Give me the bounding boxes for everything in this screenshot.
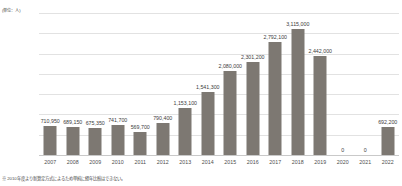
bar-value-label: 692,200 xyxy=(378,119,397,125)
x-axis-tick-label: 2014 xyxy=(202,159,214,165)
bar-value-label: 741,700 xyxy=(108,117,127,123)
bar-group: 675,3502009 xyxy=(84,13,107,155)
bar-group: 3,115,0002018 xyxy=(287,13,310,155)
bar-value-label: 2,080,000 xyxy=(218,63,242,69)
bar-value-label: 1,153,100 xyxy=(173,100,197,106)
bar-value-label: 2,792,100 xyxy=(263,34,287,40)
bar[interactable] xyxy=(291,29,304,155)
bar-group: 2,080,0002015 xyxy=(219,13,242,155)
x-axis-tick-label: 2009 xyxy=(89,159,101,165)
x-axis-tick-label: 2011 xyxy=(135,159,146,165)
bar-group: 1,541,3002014 xyxy=(197,13,220,155)
bar-value-label: 710,950 xyxy=(41,118,60,124)
bar-value-label: 0 xyxy=(341,147,344,153)
bar-group: 689,1502008 xyxy=(62,13,85,155)
x-axis-tick-label: 2013 xyxy=(179,159,191,165)
plot-area: 3,500,0003,000,0002,500,0002,000,0001,50… xyxy=(39,13,399,155)
bar-group: 790,4002012 xyxy=(152,13,175,155)
bar-group: 02021 xyxy=(354,13,377,155)
x-axis-tick-label: 2019 xyxy=(314,159,326,165)
bar-group: 02020 xyxy=(332,13,355,155)
bar-value-label: 790,400 xyxy=(153,115,172,121)
bar[interactable] xyxy=(134,132,147,155)
bar[interactable] xyxy=(179,108,192,155)
x-axis-tick-label: 2020 xyxy=(337,159,349,165)
x-axis-tick-label: 2008 xyxy=(67,159,79,165)
bar[interactable] xyxy=(156,123,169,155)
x-axis-tick-label: 2016 xyxy=(247,159,259,165)
bar-value-label: 675,350 xyxy=(86,120,105,126)
bar[interactable] xyxy=(66,127,79,155)
bar-value-label: 569,700 xyxy=(131,124,150,130)
bar[interactable] xyxy=(111,125,124,155)
bar-group: 569,7002011 xyxy=(129,13,152,155)
bar-value-label: 3,115,000 xyxy=(286,21,309,27)
x-axis-tick-label: 2010 xyxy=(112,159,124,165)
bar[interactable] xyxy=(246,62,259,155)
bar-group: 741,7002010 xyxy=(107,13,130,155)
bar-chart: (単位：人) 3,500,0003,000,0002,500,0002,000,… xyxy=(0,0,402,186)
x-axis-tick-label: 2022 xyxy=(382,159,394,165)
bar-value-label: 2,301,200 xyxy=(241,54,265,60)
bar[interactable] xyxy=(44,126,57,155)
bar-value-label: 689,150 xyxy=(63,119,82,125)
bar-value-label: 2,442,000 xyxy=(308,48,332,54)
bar-group: 2,301,2002016 xyxy=(242,13,265,155)
bar[interactable] xyxy=(89,128,102,155)
bar[interactable] xyxy=(201,92,214,155)
y-axis-unit-label: (単位：人) xyxy=(2,7,21,13)
bar-group: 1,153,1002013 xyxy=(174,13,197,155)
bar[interactable] xyxy=(269,42,282,155)
x-axis-tick-label: 2021 xyxy=(359,159,371,165)
bar[interactable] xyxy=(224,71,237,155)
chart-footnote: ※ 2010年度より新算定方式によるため単純に経年比較はできない。 xyxy=(2,175,125,181)
bar-group: 2,442,0002019 xyxy=(309,13,332,155)
x-axis-tick-label: 2015 xyxy=(224,159,236,165)
bar-group: 2,792,1002017 xyxy=(264,13,287,155)
x-axis-tick-label: 2007 xyxy=(44,159,56,165)
bar-value-label: 0 xyxy=(364,147,367,153)
bar-group: 692,2002022 xyxy=(377,13,400,155)
x-axis-tick-label: 2018 xyxy=(292,159,304,165)
bar-group: 710,9502007 xyxy=(39,13,62,155)
gridline xyxy=(39,155,399,156)
x-axis-tick-label: 2017 xyxy=(269,159,281,165)
x-axis-tick-label: 2012 xyxy=(157,159,169,165)
bar[interactable] xyxy=(314,56,327,155)
bar-value-label: 1,541,300 xyxy=(196,84,220,90)
bar[interactable] xyxy=(381,127,394,155)
